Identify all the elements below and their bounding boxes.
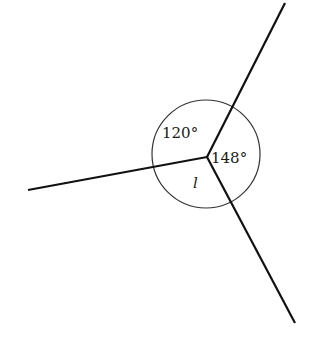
ray-lower-right (207, 157, 295, 323)
angle-label-l: l (193, 174, 198, 192)
angle-diagram: 120° 148° l (0, 0, 322, 347)
ray-upper-right (207, 3, 285, 157)
angle-label-120: 120° (162, 124, 198, 142)
ray-left (28, 157, 207, 190)
angle-label-148: 148° (211, 149, 247, 167)
